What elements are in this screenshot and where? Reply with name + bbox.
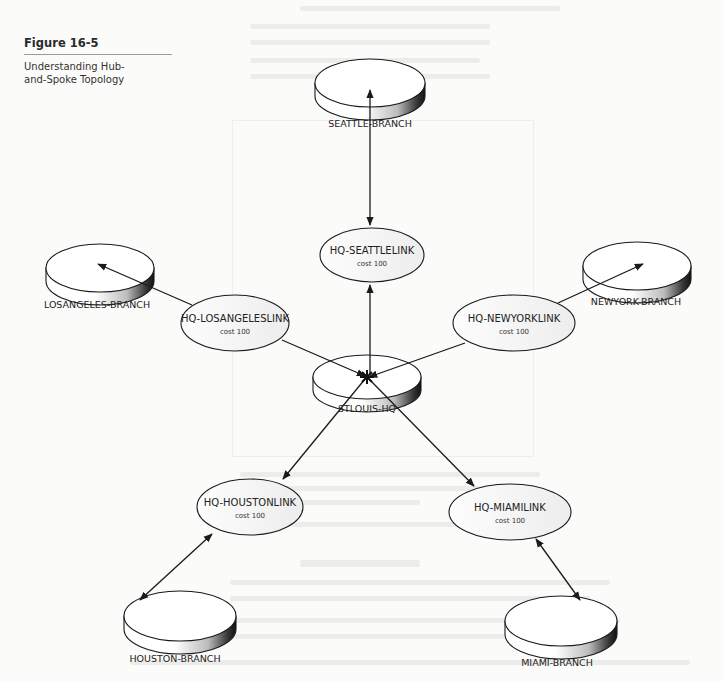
hub-and-spoke-diagram: SEATTLE-BRANCHLOSANGELES-BRANCHNEWYORK-B… [0, 0, 724, 681]
cylinder-top [583, 242, 691, 290]
branch-router-losangeles: LOSANGELES-BRANCH [44, 244, 154, 310]
link-cost: cost 100 [499, 328, 529, 336]
site-link-seattle: HQ-SEATTLELINKcost 100 [320, 228, 424, 282]
hub-converge-icon [360, 370, 374, 384]
link-cost: cost 100 [220, 328, 250, 336]
site-link-houston: HQ-HOUSTONLINKcost 100 [197, 479, 303, 535]
site-link-newyork: HQ-NEWYORKLINKcost 100 [453, 295, 575, 351]
link-name: HQ-SEATTLELINK [330, 245, 415, 256]
branch-connector-line [536, 539, 580, 600]
site-label: STLOUIS-HQ [338, 403, 396, 414]
site-link-losangeles: HQ-LOSANGELESLINKcost 100 [181, 295, 290, 351]
link-cost: cost 100 [495, 517, 525, 525]
cylinder-top [505, 596, 617, 646]
link-cost: cost 100 [235, 512, 265, 520]
site-link-miami: HQ-MIAMILINKcost 100 [449, 484, 571, 540]
branch-router-miami: MIAMI-BRANCH [505, 596, 617, 668]
site-label: LOSANGELES-BRANCH [44, 299, 150, 310]
link-cost: cost 100 [357, 260, 387, 268]
hub-connector-line [369, 379, 474, 486]
link-name: HQ-LOSANGELESLINK [181, 313, 290, 324]
site-label: MIAMI-BRANCH [521, 657, 593, 668]
branch-router-houston: HOUSTON-BRANCH [124, 591, 236, 664]
link-name: HQ-NEWYORKLINK [468, 313, 561, 324]
branch-router-newyork: NEWYORK-BRANCH [583, 242, 691, 307]
link-name: HQ-HOUSTONLINK [204, 497, 297, 508]
cylinder-top [46, 244, 154, 292]
site-label: NEWYORK-BRANCH [591, 296, 681, 307]
site-label: HOUSTON-BRANCH [129, 653, 220, 664]
sites: SEATTLE-BRANCHLOSANGELES-BRANCHNEWYORK-B… [44, 59, 691, 668]
link-name: HQ-MIAMILINK [474, 502, 546, 513]
branch-connector-line [140, 534, 212, 600]
